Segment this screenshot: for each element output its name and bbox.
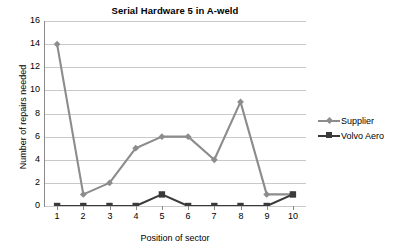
x-axis-tick-mark bbox=[136, 206, 137, 210]
y-axis-tick-label: 14 bbox=[6, 39, 40, 48]
series-supplier bbox=[54, 41, 297, 198]
x-axis-tick-mark bbox=[293, 206, 294, 210]
plot-area bbox=[44, 21, 306, 206]
diamond-marker-icon bbox=[318, 115, 340, 126]
x-axis-title: Position of sector bbox=[44, 233, 306, 243]
y-axis-tick-label: 2 bbox=[6, 178, 40, 187]
y-axis-tick-label: 8 bbox=[6, 109, 40, 118]
x-axis-tick-mark bbox=[188, 206, 189, 210]
series-volvo-aero bbox=[54, 191, 296, 206]
x-axis-tick-mark bbox=[162, 206, 163, 210]
data-point-marker bbox=[80, 191, 87, 198]
x-axis-tick-mark bbox=[110, 206, 111, 210]
series-line bbox=[57, 44, 293, 194]
y-axis-tick-label: 0 bbox=[6, 201, 40, 210]
legend-item-volvo-aero[interactable]: Volvo Aero bbox=[318, 128, 384, 143]
chart-container: Serial Hardware 5 in A-weld Number of re… bbox=[0, 0, 408, 252]
x-axis-tick-mark bbox=[267, 206, 268, 210]
legend: SupplierVolvo Aero bbox=[318, 113, 384, 143]
x-axis-tick-label: 2 bbox=[68, 211, 98, 221]
y-axis-tick-label: 4 bbox=[6, 155, 40, 164]
square-marker-icon bbox=[318, 130, 340, 141]
x-axis-tick-label: 10 bbox=[278, 211, 308, 221]
x-axis-tick-mark bbox=[214, 206, 215, 210]
y-axis-tick-label: 16 bbox=[6, 16, 40, 25]
data-point-marker bbox=[159, 133, 166, 140]
legend-label: Supplier bbox=[341, 116, 374, 126]
data-point-marker bbox=[159, 191, 165, 197]
series-line bbox=[57, 194, 293, 206]
x-axis-tick-mark bbox=[241, 206, 242, 210]
data-point-marker bbox=[263, 191, 270, 198]
y-axis-tick-label: 10 bbox=[6, 85, 40, 94]
series-layer bbox=[44, 21, 306, 206]
chart-title: Serial Hardware 5 in A-weld bbox=[44, 5, 306, 16]
x-axis-tick-mark bbox=[57, 206, 58, 210]
x-axis-tick-label: 7 bbox=[199, 211, 229, 221]
y-axis-tick-label: 6 bbox=[6, 132, 40, 141]
x-axis-tick-mark bbox=[83, 206, 84, 210]
legend-label: Volvo Aero bbox=[341, 131, 384, 141]
y-axis-tick-label: 12 bbox=[6, 62, 40, 71]
legend-item-supplier[interactable]: Supplier bbox=[318, 113, 384, 128]
data-point-marker bbox=[290, 191, 296, 197]
data-point-marker bbox=[237, 99, 244, 106]
data-point-marker bbox=[54, 41, 61, 48]
